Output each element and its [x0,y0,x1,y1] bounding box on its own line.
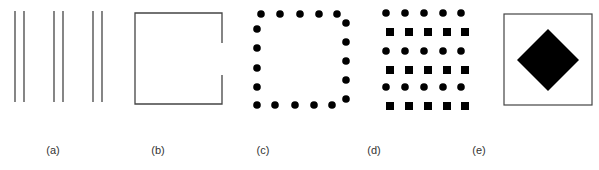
panel-e-label: (e) [472,144,485,156]
figure-canvas [0,0,599,140]
panel-c-label: (c) [257,144,270,156]
panel-c-dot-square [253,10,350,109]
panel-b-label: (b) [151,144,164,156]
panel-e-diamond-in-square [504,14,592,105]
panel-a-lines [15,11,102,102]
panel-d-circle-square-grid [382,9,469,110]
panel-b-open-square [135,13,222,104]
panel-d-label: (d) [367,144,380,156]
panel-a-label: (a) [46,144,59,156]
